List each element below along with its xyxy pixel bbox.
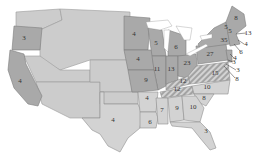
state-label-north-carolina: 10: [204, 84, 211, 91]
state-label-florida: 3: [204, 128, 208, 135]
lake-superior: [146, 20, 172, 30]
state-label-oregon: 3: [22, 35, 26, 42]
state-label-new-hampshire: 5: [228, 28, 232, 35]
state-label-georgia: 10: [190, 104, 197, 111]
state-label-maine: 8: [234, 15, 238, 22]
state-label-tennessee: 12: [174, 86, 181, 93]
state-label-maryland: 3: [236, 67, 240, 74]
state-label-south-carolina: 8: [202, 95, 206, 102]
us-map: [0, 0, 257, 165]
state-label-virginia: 15: [212, 70, 219, 77]
state-label-missouri: 9: [144, 77, 148, 84]
state-label-kentucky: 12: [180, 78, 187, 85]
state-label-delaware: 3: [232, 59, 236, 66]
new-mexico-territory: [36, 82, 100, 118]
state-label-massachusetts: 13: [245, 30, 252, 37]
state-label-illinois: 11: [154, 66, 161, 73]
state-label-new-york: 35: [221, 37, 228, 44]
state-label-alabama: 9: [175, 105, 179, 112]
state-label-michigan: 6: [174, 44, 178, 51]
state-label-ohio: 23: [184, 60, 191, 67]
state-label-louisiana: 6: [148, 119, 152, 126]
state-label-vermont: 5: [224, 24, 228, 31]
state-label-california: 4: [18, 78, 22, 85]
oregon: [12, 26, 42, 50]
state-label-mississippi: 7: [160, 107, 164, 114]
missouri: [128, 70, 158, 92]
state-label-texas: 4: [111, 117, 115, 124]
state-label-indiana: 13: [168, 66, 175, 73]
state-label-pennsylvania: 27: [207, 51, 214, 58]
state-label-minnesota: 4: [132, 31, 136, 38]
state-label-arkansas: 4: [145, 95, 149, 102]
minnesota: [124, 16, 150, 50]
state-label-connecticut: 6: [239, 49, 243, 56]
florida: [170, 122, 216, 150]
indian-territory: [100, 92, 138, 104]
state-label-iowa: 4: [136, 56, 140, 63]
state-label-delaware-md-2: 8: [235, 76, 239, 83]
state-label-wisconsin: 5: [154, 40, 158, 47]
state-label-rhode-island: 4: [244, 41, 248, 48]
